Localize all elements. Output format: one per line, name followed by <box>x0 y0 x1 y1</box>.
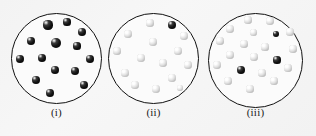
circle-wrapper <box>208 13 303 108</box>
light-sphere <box>250 29 257 36</box>
light-sphere <box>286 28 294 36</box>
panel-ii: (ii) <box>108 0 199 136</box>
panel-caption: (ii) <box>108 106 199 118</box>
light-sphere <box>244 16 252 24</box>
panel-iii: (iii) <box>208 0 303 136</box>
light-sphere <box>224 77 232 85</box>
light-sphere <box>184 61 192 69</box>
light-sphere <box>240 40 248 48</box>
light-sphere <box>124 30 132 38</box>
light-sphere <box>258 69 266 77</box>
dark-sphere <box>73 42 80 49</box>
light-sphere <box>213 61 221 69</box>
dark-sphere <box>27 37 35 45</box>
light-sphere <box>250 53 257 60</box>
light-sphere <box>159 59 167 67</box>
light-sphere <box>174 47 182 55</box>
light-sphere <box>216 37 224 45</box>
light-sphere <box>131 81 139 89</box>
light-sphere <box>121 69 129 77</box>
light-sphere <box>180 32 188 40</box>
light-sphere <box>226 25 234 33</box>
light-sphere <box>168 74 176 82</box>
light-sphere <box>152 85 160 93</box>
light-sphere <box>266 17 274 25</box>
panel-caption: (i) <box>11 106 102 118</box>
panel-i: (i) <box>11 0 102 136</box>
circle-wrapper <box>108 13 199 104</box>
light-sphere <box>270 77 277 84</box>
light-sphere <box>289 45 297 53</box>
dark-sphere <box>43 20 52 29</box>
light-sphere <box>284 64 292 72</box>
light-sphere <box>246 85 254 93</box>
light-sphere <box>261 43 268 50</box>
circle-wrapper <box>11 13 102 104</box>
light-sphere <box>226 51 234 59</box>
dark-sphere <box>63 18 70 25</box>
dark-sphere <box>273 56 280 63</box>
light-sphere <box>149 38 157 46</box>
panel-caption: (iii) <box>208 106 303 118</box>
dark-sphere <box>51 38 61 48</box>
light-sphere <box>146 19 154 27</box>
figure-container: (i)(ii)(iii) <box>0 0 316 136</box>
light-sphere <box>113 47 121 55</box>
dark-sphere <box>237 66 245 74</box>
